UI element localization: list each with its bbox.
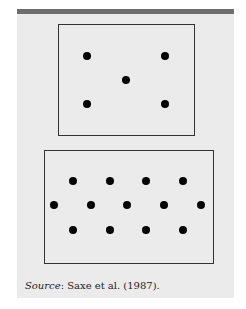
top-dot (161, 100, 169, 108)
bottom-dot (179, 226, 187, 234)
bottom-dot (142, 177, 150, 185)
top-dot (83, 100, 91, 108)
bottom-dot (69, 177, 77, 185)
bottom-dot (142, 226, 150, 234)
bottom-dot (106, 177, 114, 185)
bottom-dot (106, 226, 114, 234)
bottom-dot (160, 201, 168, 209)
top-dot (161, 52, 169, 60)
bottom-dot (197, 201, 205, 209)
bottom-dot (87, 201, 95, 209)
bottom-dot (69, 226, 77, 234)
bottom-dot (123, 201, 131, 209)
top-dot (122, 76, 130, 84)
caption-text: : Saxe et al. (1987). (61, 280, 160, 291)
bottom-dot (179, 177, 187, 185)
caption-label: Source (25, 280, 61, 291)
bottom-dot (50, 201, 58, 209)
top-dot (83, 52, 91, 60)
figure-caption: Source: Saxe et al. (1987). (25, 280, 160, 291)
